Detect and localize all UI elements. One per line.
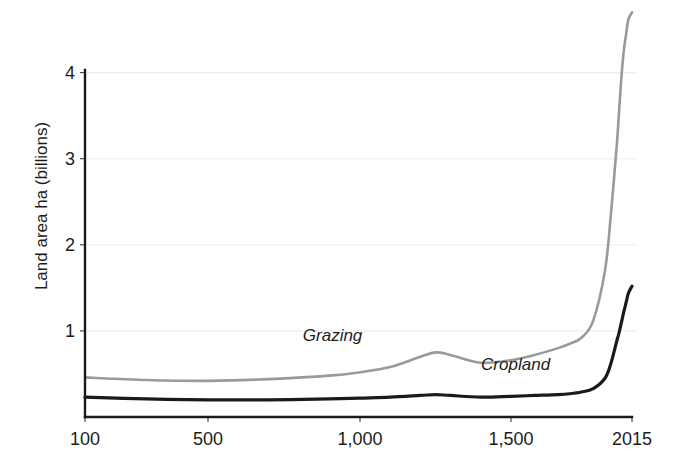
series-label-grazing: Grazing [303,327,363,344]
chart-figure: Land area ha (billions) 1234 1005001,000… [0,0,679,469]
x-tick-label: 2015 [597,430,667,448]
y-tick-label: 2 [49,236,75,254]
y-tick-label: 3 [49,150,75,168]
series-label-cropland: Cropland [481,356,550,373]
line-chart-plot [0,0,679,469]
gridlines [85,73,637,331]
x-tick-label: 1,000 [325,430,395,448]
y-axis-title: Land area ha (billions) [32,86,52,326]
y-tick-label: 4 [49,64,75,82]
x-tick-label: 100 [50,430,120,448]
x-tick-label: 1,500 [476,430,546,448]
y-tick-label: 1 [49,322,75,340]
x-tick-label: 500 [173,430,243,448]
